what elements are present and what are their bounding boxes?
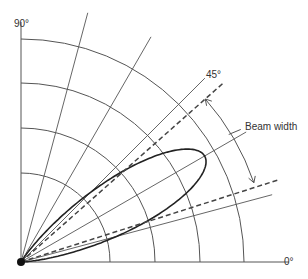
beam-lobe: [21, 149, 206, 262]
main-lobe-curve: [21, 149, 206, 262]
grid-radial-line: [21, 78, 205, 262]
label-45-degrees: 45°: [206, 70, 221, 80]
polar-beam-diagram: [0, 0, 308, 279]
label-90-degrees: 90°: [14, 19, 29, 29]
grid-radial-line: [21, 37, 151, 262]
beam-width-leader-line: [229, 129, 241, 134]
grid-radial-line: [21, 132, 246, 262]
polar-grid-radial-lines: [21, 13, 272, 262]
beam-edge-dashed-lines: [21, 84, 278, 262]
grid-radial-line: [21, 13, 88, 262]
beam-width-arc: [205, 99, 254, 183]
label-beam-width: Beam width: [245, 122, 297, 132]
origin-point: [17, 258, 25, 266]
half-power-line: [21, 180, 278, 262]
label-0-degrees: 0°: [284, 257, 294, 267]
